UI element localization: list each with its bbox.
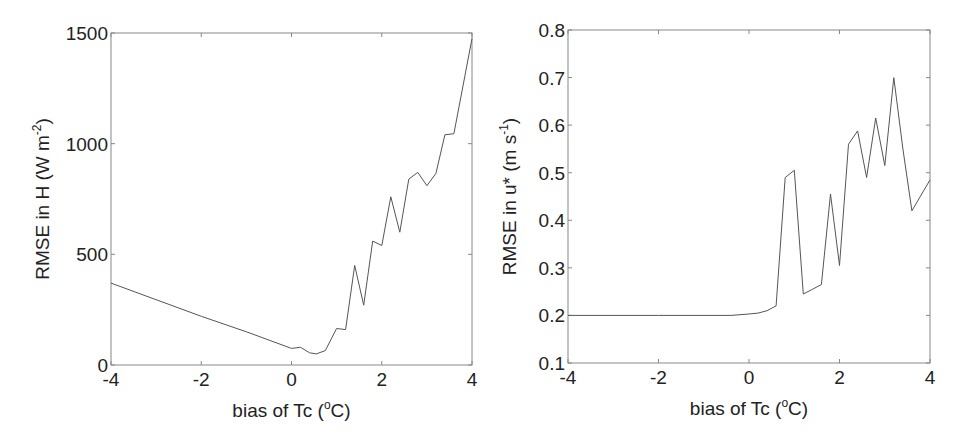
x-axis-label: bias of Tc (oC) <box>690 396 808 419</box>
chart-rmse-ustar: -4-20240.10.20.30.40.50.60.70.8bias of T… <box>497 20 936 419</box>
data-line <box>111 39 472 354</box>
y-tick-label: 0.1 <box>539 353 565 374</box>
x-tick-label: -2 <box>650 367 667 388</box>
figure: -4-2024050010001500bias of Tc (oC)RMSE i… <box>0 0 954 440</box>
data-line <box>568 78 930 316</box>
x-axis-label: bias of Tc (oC) <box>232 398 350 421</box>
y-tick-label: 0.3 <box>539 258 565 279</box>
plot-area <box>568 30 930 363</box>
y-tick-label: 0.5 <box>539 163 565 184</box>
x-tick-label: 2 <box>834 367 845 388</box>
plot-area <box>111 33 472 365</box>
x-tick-label: 4 <box>925 367 936 388</box>
x-tick-label: 2 <box>376 369 387 390</box>
y-tick-label: 0.8 <box>539 20 565 41</box>
y-tick-label: 0.6 <box>539 115 565 136</box>
y-tick-label: 1000 <box>66 134 108 155</box>
y-tick-label: 0.4 <box>539 210 566 231</box>
x-tick-label: -2 <box>193 369 210 390</box>
chart-rmse-h: -4-2024050010001500bias of Tc (oC)RMSE i… <box>30 23 478 421</box>
y-tick-label: 1500 <box>66 23 108 44</box>
y-axis-label: RMSE in H (W m-2) <box>30 118 53 280</box>
y-tick-label: 0 <box>97 355 108 376</box>
x-tick-label: 4 <box>467 369 478 390</box>
y-axis-label: RMSE in u* (m s-1) <box>497 118 520 275</box>
x-tick-label: 0 <box>744 367 755 388</box>
y-tick-label: 0.2 <box>539 305 565 326</box>
x-tick-label: 0 <box>286 369 297 390</box>
y-tick-label: 500 <box>76 244 108 265</box>
y-tick-label: 0.7 <box>539 68 565 89</box>
